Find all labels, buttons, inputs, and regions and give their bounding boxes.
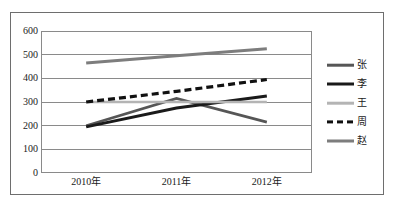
y-tick-label: 500 [23,50,38,60]
x-axis: 2010年2011年2012年 [41,176,312,192]
x-tick-label: 2011年 [162,176,192,188]
legend-label: 张 [357,60,367,70]
legend-swatch-张 [327,60,354,70]
plot-area-wrapper [41,31,312,173]
legend-item-周[interactable]: 周 [327,116,379,128]
y-tick-label: 300 [23,97,38,107]
x-tick-label: 2012年 [252,176,282,188]
y-tick-label: 100 [23,144,38,154]
legend-item-王[interactable]: 王 [327,97,379,109]
legend-swatch-王 [327,98,354,108]
legend-swatch-赵 [327,136,354,146]
y-axis: 6005004003002001000 [10,31,38,173]
legend-item-张[interactable]: 张 [327,59,379,71]
series-layer [41,31,312,173]
y-tick-label: 200 [23,121,38,131]
legend-item-李[interactable]: 李 [327,78,379,90]
legend-swatch-李 [327,79,354,89]
y-tick-label: 600 [23,26,38,36]
y-tick-label: 400 [23,73,38,83]
legend-label: 赵 [357,136,367,146]
legend-label: 周 [357,117,367,127]
chart-legend: 张李王周赵 [327,59,379,155]
legend-label: 王 [357,98,367,108]
legend-swatch-周 [327,117,354,127]
chart-figure: 6005004003002001000 2010年2011年2012年 张李王周… [0,0,397,210]
x-tick-label: 2010年 [71,176,101,188]
legend-label: 李 [357,79,367,89]
series-line-李 [86,96,267,127]
y-tick-label: 0 [33,168,38,178]
series-line-赵 [86,49,267,63]
legend-item-赵[interactable]: 赵 [327,135,379,147]
